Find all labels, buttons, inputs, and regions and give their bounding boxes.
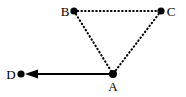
point-label-c: C — [167, 4, 176, 19]
point-dot-b — [70, 7, 77, 14]
point-label-b: B — [61, 4, 70, 19]
point-label-d: D — [6, 67, 15, 82]
diagram-canvas: B C A D — [0, 0, 186, 97]
point-dot-c — [157, 7, 164, 14]
point-label-a: A — [108, 79, 118, 94]
vector-diagram-figure: B C A D — [0, 0, 186, 97]
point-dot-d — [17, 70, 24, 77]
point-dot-a — [109, 70, 117, 78]
